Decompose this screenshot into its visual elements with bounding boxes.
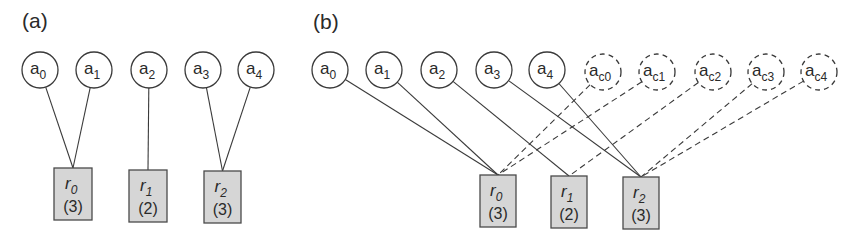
edge-a0-to-r0	[46, 87, 73, 168]
agent-node-a-a4: a4	[238, 52, 274, 88]
resource-capacity: (3)	[213, 201, 233, 218]
agent-node-b-a0: a0	[312, 52, 348, 88]
nodes-layer: a0a1a2a3a4r0(3)r1(2)r2(3)a0a1a2a3a4ac0ac…	[22, 52, 837, 229]
allocation-diagram: a0a1a2a3a4r0(3)r1(2)r2(3)a0a1a2a3a4ac0ac…	[0, 0, 852, 240]
agent-node-a-a2: a2	[131, 52, 167, 88]
agent-node-b-ac0: ac0	[585, 54, 621, 90]
edge-a3-to-r2	[206, 88, 222, 171]
resource-capacity: (3)	[631, 207, 651, 224]
resource-node-a-r0: r0(3)	[54, 168, 92, 220]
edge-a2-to-r1	[148, 88, 149, 170]
agent-node-a-a0: a0	[22, 52, 58, 88]
agent-node-b-ac1: ac1	[639, 54, 675, 90]
panel-label-b: (b)	[313, 10, 339, 33]
edge-a1-to-r0	[73, 88, 90, 168]
agent-node-b-a2: a2	[421, 52, 457, 88]
resource-capacity: (2)	[138, 200, 158, 217]
resource-node-b-r0: r0(3)	[480, 175, 516, 227]
agent-node-b-a1: a1	[366, 52, 402, 88]
resource-capacity: (2)	[559, 206, 579, 223]
resource-node-a-r2: r2(3)	[204, 171, 241, 223]
agent-node-b-ac4: ac4	[801, 54, 837, 90]
agent-node-a-a1: a1	[76, 52, 112, 88]
panel-labels-layer: (a)(b)	[22, 9, 339, 33]
edge-ac3-to-r2	[641, 84, 752, 177]
edge-ac2-to-r1	[569, 83, 698, 177]
panel-label-a: (a)	[22, 9, 48, 32]
agent-node-b-ac3: ac3	[748, 54, 784, 90]
agent-node-b-ac2: ac2	[695, 54, 731, 90]
resource-capacity: (3)	[488, 205, 508, 222]
edge-a4-to-r2	[559, 84, 641, 178]
resource-capacity: (3)	[63, 198, 83, 215]
edges-layer	[46, 80, 804, 178]
resource-node-b-r1: r1(2)	[551, 176, 587, 228]
edge-ac4-to-r2	[641, 81, 804, 177]
agent-node-a-a3: a3	[185, 52, 221, 88]
edge-a0-to-r0	[345, 80, 498, 176]
edge-a1-to-r0	[397, 82, 498, 175]
agent-node-b-a4: a4	[529, 52, 565, 88]
agent-node-b-a3: a3	[476, 52, 512, 88]
resource-node-a-r1: r1(2)	[129, 170, 167, 222]
edge-a4-to-r2	[223, 87, 251, 171]
resource-node-b-r2: r2(3)	[623, 177, 659, 229]
